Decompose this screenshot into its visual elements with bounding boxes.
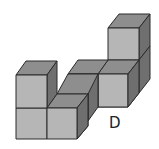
cube-left-upper [16,61,57,108]
cube-right-upper [108,14,150,60]
cube-middle-front [47,94,88,139]
cube-left-lower [16,108,47,139]
figure-label: D [109,116,121,131]
cube-figure [0,0,159,149]
